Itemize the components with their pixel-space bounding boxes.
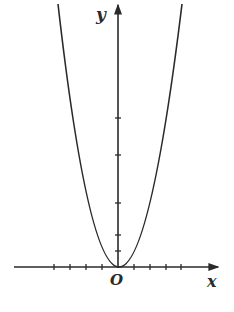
parabola-curve: [58, 4, 182, 267]
x-axis-label: x: [207, 274, 217, 290]
parabola-graph: [0, 0, 234, 312]
y-axis-label: y: [96, 6, 106, 23]
origin-label: O: [110, 273, 123, 288]
